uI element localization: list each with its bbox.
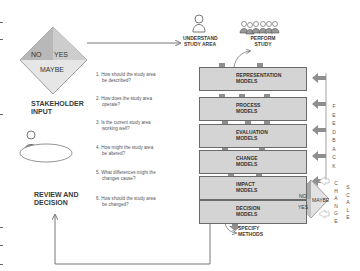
margin-tick <box>0 22 3 23</box>
specify-methods-label: SPECIFY METHODS <box>238 226 263 238</box>
question-4: 4. How might the study areabe altered? <box>96 145 196 157</box>
understand-person-icon <box>193 15 205 32</box>
margin-tick <box>0 264 3 265</box>
impact-models-box: IMPACTMODELS <box>199 176 307 200</box>
question-1: 1. How should the study areabe described… <box>96 72 196 84</box>
question-3: 3. Is the current study areaworking well… <box>96 120 196 132</box>
understand-study-area-label: UNDERSTAND STUDY AREA <box>183 36 217 48</box>
scale-down-arrow-icon <box>319 210 329 218</box>
margin-tick <box>0 114 3 115</box>
question-2: 2. How does the study areaoperate? <box>96 96 196 108</box>
question-6: 6. How should the study areabe changed? <box>96 196 196 208</box>
decision-models-box: DECISIONMODELS <box>199 200 307 224</box>
change-models-box: CHANGEMODELS <box>199 150 307 174</box>
stakeholder-maybe-label: MAYBE <box>40 66 64 73</box>
feedback-label: FEEDBACK <box>330 102 338 170</box>
stakeholder-input-title: STAKEHOLDER INPUT <box>31 100 84 116</box>
margin-tick <box>0 39 3 40</box>
decision-maybe-label: MAYBE <box>312 197 329 203</box>
stakeholder-diamond <box>20 27 87 94</box>
margin-tick <box>0 245 3 246</box>
scale-label: SCALE <box>344 184 352 222</box>
arrow-to-perform <box>234 51 250 67</box>
perform-study-label: PERFORM STUDY <box>248 36 278 48</box>
representation-models-box: REPRESENTATIONMODELS <box>199 67 307 91</box>
stakeholder-no-label: NO <box>31 51 42 58</box>
margin-tick <box>0 227 3 228</box>
perform-group-icon <box>240 22 279 35</box>
evaluation-models-box: EVALUATIONMODELS <box>199 124 307 148</box>
scale-up-arrow-icon <box>319 177 329 185</box>
process-models-box: PROCESSMODELS <box>199 97 307 121</box>
decision-yes-label: YES <box>298 204 308 210</box>
stakeholder-ellipse <box>20 144 72 162</box>
review-decision-title: REVIEW AND DECISION <box>34 191 78 207</box>
change-label: CHANGE <box>332 180 340 225</box>
stakeholder-yes-label: YES <box>54 51 68 58</box>
return-loop-arrow <box>55 215 210 264</box>
question-5: 5. What differences might thechanges cau… <box>96 170 196 182</box>
decision-no-label: NO <box>299 193 307 199</box>
